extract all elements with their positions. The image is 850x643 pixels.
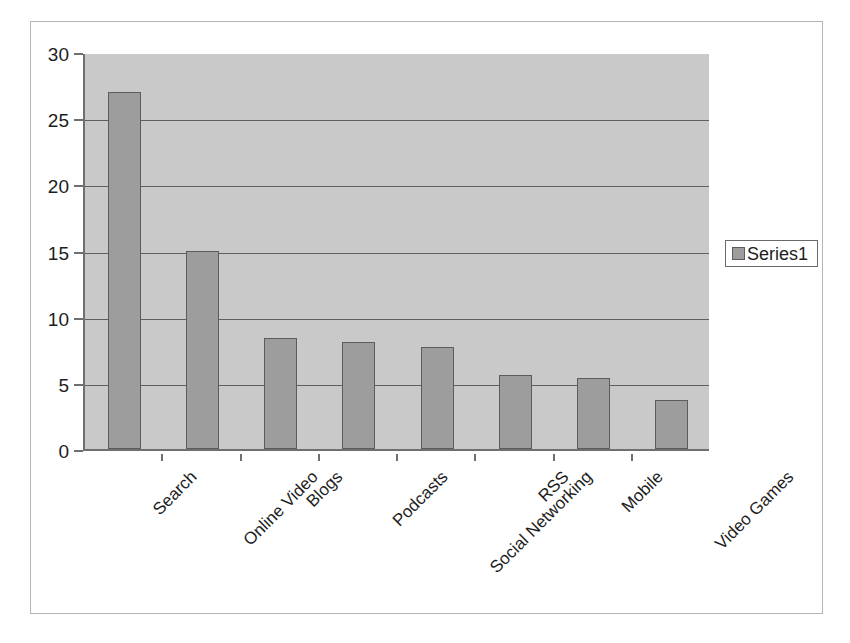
y-tick-label-25: 25 xyxy=(48,111,69,130)
legend-label-series1: Series1 xyxy=(747,245,808,263)
bar[interactable] xyxy=(577,378,610,449)
gridline-5 xyxy=(85,385,709,386)
gridline-10 xyxy=(85,319,709,320)
x-tick-label: Online Video xyxy=(241,468,322,549)
bar[interactable] xyxy=(655,400,688,449)
x-tick-label: Video Games xyxy=(712,468,797,553)
y-tick-mark-20 xyxy=(74,185,83,187)
chart-frame: 051015202530 SearchOnline VideoBlogsPodc… xyxy=(30,21,823,614)
x-tick-mark xyxy=(553,454,555,461)
x-tick-mark xyxy=(631,454,633,461)
y-tick-label-20: 20 xyxy=(48,177,69,196)
y-tick-label-5: 5 xyxy=(58,375,69,394)
x-axis: SearchOnline VideoBlogsPodcastsSocial Ne… xyxy=(83,454,723,604)
gridline-25 xyxy=(85,120,709,121)
bar[interactable] xyxy=(186,251,219,450)
y-tick-mark-25 xyxy=(74,119,83,121)
x-tick-mark xyxy=(240,454,242,461)
y-tick-mark-5 xyxy=(74,384,83,386)
x-tick-mark xyxy=(318,454,320,461)
bar[interactable] xyxy=(264,338,297,449)
y-tick-mark-0 xyxy=(74,450,83,452)
x-tick-mark xyxy=(474,454,476,461)
y-tick-label-0: 0 xyxy=(58,442,69,461)
x-tick-mark xyxy=(161,454,163,461)
bar[interactable] xyxy=(421,347,454,449)
legend-swatch-series1 xyxy=(732,247,745,260)
y-tick-label-30: 30 xyxy=(48,45,69,64)
x-tick-mark xyxy=(396,454,398,461)
y-tick-mark-10 xyxy=(74,318,83,320)
bar[interactable] xyxy=(108,92,141,449)
gridline-15 xyxy=(85,253,709,254)
y-tick-label-15: 15 xyxy=(48,243,69,262)
gridline-20 xyxy=(85,186,709,187)
x-tick-label: Mobile xyxy=(618,468,665,515)
bar[interactable] xyxy=(342,342,375,449)
y-tick-mark-15 xyxy=(74,252,83,254)
y-axis: 051015202530 xyxy=(31,22,83,451)
x-tick-label: Search xyxy=(150,468,200,518)
chart-legend[interactable]: Series1 xyxy=(725,240,818,267)
plot-area xyxy=(83,54,709,451)
y-tick-mark-30 xyxy=(74,53,83,55)
bar[interactable] xyxy=(499,375,532,449)
x-tick-label: Podcasts xyxy=(389,468,450,529)
y-tick-label-10: 10 xyxy=(48,309,69,328)
